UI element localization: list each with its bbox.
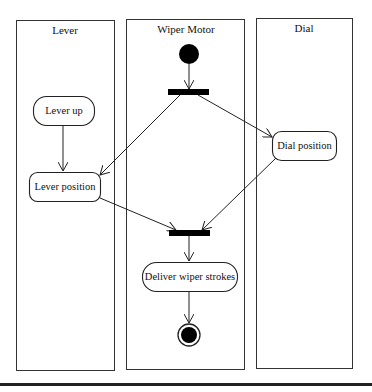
action-lever-up: Lever up (34, 97, 95, 126)
final-node-icon (178, 324, 200, 346)
lane-title-dial: Dial (295, 22, 314, 34)
action-label-lever-up: Lever up (45, 105, 83, 116)
action-label-deliver-wiper-strokes: Deliver wiper strokes (145, 271, 235, 282)
lane-wiper-motor: Wiper Motor (127, 20, 245, 370)
edge-fork-to-dial-position (198, 95, 272, 137)
lane-title-lever: Lever (52, 24, 78, 36)
bottom-rule (0, 383, 372, 386)
edge-lever-position-to-join (100, 198, 176, 230)
action-deliver-wiper-strokes: Deliver wiper strokes (143, 263, 238, 292)
edge-fork-to-lever-position (100, 95, 180, 175)
lane-dial: Dial (257, 19, 353, 369)
action-label-lever-position: Lever position (35, 181, 97, 192)
activity-diagram: Lever Wiper Motor Dial Lever up Lever po… (0, 0, 372, 392)
initial-node-icon (179, 44, 199, 64)
action-lever-position: Lever position (30, 173, 101, 202)
action-dial-position: Dial position (273, 132, 337, 161)
fork-bar (168, 89, 209, 95)
join-bar (169, 230, 210, 236)
action-label-dial-position: Dial position (277, 140, 332, 151)
edge-dial-position-to-join (202, 158, 276, 230)
lane-title-wiper-motor: Wiper Motor (157, 23, 215, 35)
